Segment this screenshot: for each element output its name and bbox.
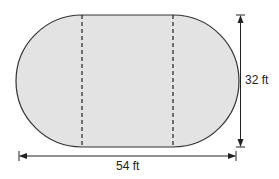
stadium-diagram <box>0 0 279 179</box>
height-label: 32 ft <box>245 73 268 87</box>
width-label: 54 ft <box>116 159 139 173</box>
stadium-shape <box>16 15 239 147</box>
